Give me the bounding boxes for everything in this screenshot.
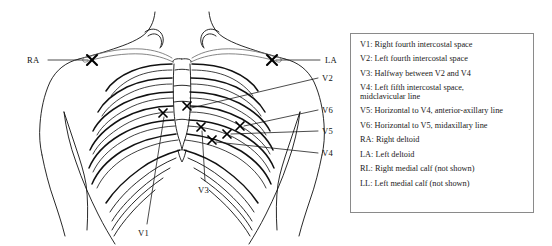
sternum-segment-3 xyxy=(174,101,190,102)
scapula-hook-left-inner xyxy=(148,34,162,48)
rib-cage-right xyxy=(184,64,274,236)
xiphoid-process xyxy=(178,150,186,162)
rib-cage-left xyxy=(89,64,180,236)
sternum-segment-2 xyxy=(174,85,190,86)
label-V4: V4 xyxy=(322,148,333,158)
neck-left-outline xyxy=(79,12,155,59)
label-LA: LA xyxy=(325,55,337,65)
legend-item-ll: LL: Left medial calf (not shown) xyxy=(351,180,533,188)
leader-V1 xyxy=(147,117,164,224)
scapula-hook-right-inner xyxy=(203,34,217,48)
legend-panel: V1: Right fourth intercostal space V2: L… xyxy=(350,33,534,213)
right-arm-outline xyxy=(299,155,322,236)
clavicle-right-lower xyxy=(191,54,276,62)
legend-list: V1: Right fourth intercostal space V2: L… xyxy=(351,34,533,188)
leader-V5 xyxy=(231,131,318,134)
label-V6: V6 xyxy=(322,105,333,115)
electrode-marker-V5 xyxy=(223,130,231,138)
legend-item-v1: V1: Right fourth intercostal space xyxy=(351,41,533,49)
ecg-electrode-placement-figure: RA LA V2 V6 V5 V4 V3 V1 V1: Right fourth… xyxy=(0,0,552,246)
right-arm-inner-outline xyxy=(276,112,300,230)
leader-V4 xyxy=(216,142,318,153)
label-V1: V1 xyxy=(138,228,149,238)
sternum-segment-4 xyxy=(176,119,188,120)
left-arm-inner-outline xyxy=(64,112,88,230)
sternum-left-edge xyxy=(173,64,182,150)
legend-item-v6: V6: Horizontal to V5, midaxillary line xyxy=(351,122,533,130)
legend-item-v2: V2: Left fourth intercostal space xyxy=(351,55,533,63)
legend-item-v5: V5: Horizontal to V4, anterior-axillary … xyxy=(351,107,533,115)
leader-V6 xyxy=(244,110,318,126)
neck-right-outline xyxy=(209,12,285,59)
electrode-marker-LA xyxy=(267,55,277,65)
clavicle-left-lower xyxy=(88,54,173,62)
label-V2: V2 xyxy=(322,73,333,83)
legend-item-rl: RL: Right medial calf (not shown) xyxy=(351,165,533,173)
label-RA: RA xyxy=(27,55,39,65)
sternal-notch-right xyxy=(182,59,191,62)
label-V5: V5 xyxy=(322,126,333,136)
chest-electrode-markers xyxy=(159,102,244,144)
legend-item-v3: V3: Halfway between V2 and V4 xyxy=(351,70,533,78)
sternum-segment-1 xyxy=(175,69,189,70)
label-V3: V3 xyxy=(198,185,209,195)
left-arm-outline xyxy=(42,155,65,236)
electrode-marker-V6 xyxy=(236,122,244,130)
sternal-notch-left xyxy=(173,59,182,62)
legend-item-ra: RA: Right deltoid xyxy=(351,136,533,144)
electrode-markers xyxy=(87,55,277,65)
legend-item-la: LA: Left deltoid xyxy=(351,151,533,159)
electrode-marker-RA xyxy=(87,55,97,65)
torso-left-side xyxy=(64,112,115,244)
legend-item-v4: V4: Left fifth intercostal space, midcla… xyxy=(351,84,533,101)
